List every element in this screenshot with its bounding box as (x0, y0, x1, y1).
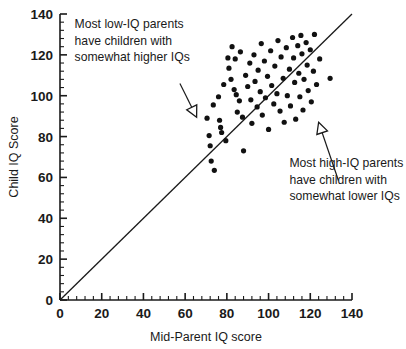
scatter-point (248, 97, 253, 102)
scatter-point (232, 87, 237, 92)
scatter-point (312, 32, 317, 37)
scatter-point (298, 33, 303, 38)
scatter-point (308, 47, 313, 52)
scatter-point (238, 49, 243, 54)
x-axis-title: Mid-Parent IQ score (150, 330, 262, 344)
scatter-point (251, 52, 256, 57)
annotation-line: have children with (75, 34, 173, 48)
annotation-line: somewhat lower IQs (289, 189, 399, 203)
scatter-point (275, 38, 280, 43)
scatter-point (306, 88, 311, 93)
scatter-data-points (204, 32, 332, 173)
scatter-point (314, 82, 319, 87)
scatter-point (300, 107, 305, 112)
annotation-leader-line (180, 83, 192, 107)
annotation-line: Most low-IQ parents (75, 17, 184, 31)
scatter-point (328, 76, 333, 81)
scatter-point (235, 109, 240, 114)
x-axis-tick-labels: 020406080100120140 (56, 306, 363, 321)
high-iq-annotation: Most high-IQ parentshave children withso… (289, 122, 403, 203)
scatter-point (260, 113, 265, 118)
scatter-point (297, 94, 302, 99)
scatter-point (268, 48, 273, 53)
scatter-point (243, 73, 248, 78)
y-tick-label: 40 (38, 211, 53, 226)
scatter-point (255, 104, 260, 109)
scatter-point (272, 63, 277, 68)
scatter-point (287, 67, 292, 72)
annotation-arrowhead-icon (317, 122, 328, 134)
y-tick-label: 0 (45, 293, 53, 308)
scatter-point (292, 80, 297, 85)
scatter-point (290, 35, 295, 40)
x-tick-label: 0 (56, 306, 64, 321)
scatter-point (226, 66, 231, 71)
scatter-point (241, 148, 246, 153)
scatter-point (304, 40, 309, 45)
scatter-point (285, 93, 290, 98)
scatter-point (262, 58, 267, 63)
scatter-point (225, 55, 230, 60)
scatter-point (309, 99, 314, 104)
scatter-point (282, 120, 287, 125)
annotation-arrowhead-icon (187, 105, 197, 117)
x-tick-label: 140 (341, 306, 364, 321)
x-tick-label: 60 (178, 306, 193, 321)
y-tick-label: 140 (30, 7, 53, 22)
y-axis-title: Child IQ Score (7, 116, 21, 197)
scatter-point (265, 74, 270, 79)
scatter-point (295, 43, 300, 48)
low-iq-annotation: Most low-IQ parentshave children withsom… (75, 17, 197, 117)
scatter-point (296, 71, 301, 76)
scatter-point (305, 62, 310, 67)
x-axis-ticks (60, 293, 352, 300)
scatter-point (291, 55, 296, 60)
x-tick-label: 40 (136, 306, 151, 321)
scatter-point (228, 77, 233, 82)
scatter-point (240, 115, 245, 120)
scatter-point (288, 103, 293, 108)
scatter-point (217, 118, 222, 123)
scatter-point (281, 76, 286, 81)
iq-regression-scatter-chart: 020406080100120140 020406080100120140 Mo… (0, 0, 406, 349)
scatter-point (207, 133, 212, 138)
scatter-point (252, 79, 257, 84)
scatter-point (237, 98, 242, 103)
scatter-point (299, 51, 304, 56)
scatter-point (229, 44, 234, 49)
x-tick-label: 120 (299, 306, 322, 321)
y-tick-label: 80 (38, 130, 53, 145)
scatter-point (234, 92, 239, 97)
scatter-point (233, 56, 238, 61)
scatter-point (218, 125, 223, 130)
annotation-line: Most high-IQ parents (289, 156, 403, 170)
scatter-point (274, 91, 279, 96)
y-axis-tick-labels: 020406080100120140 (30, 7, 53, 308)
scatter-point (219, 130, 224, 135)
x-tick-label: 80 (219, 306, 234, 321)
scatter-point (211, 102, 216, 107)
scatter-point (263, 95, 268, 100)
scatter-point (311, 69, 316, 74)
scatter-point (317, 56, 322, 61)
scatter-point (245, 84, 250, 89)
scatter-point (256, 68, 261, 73)
scatter-point (204, 116, 209, 121)
annotation-line: somewhat higher IQs (75, 50, 190, 64)
scatter-point (258, 89, 263, 94)
scatter-point (221, 82, 226, 87)
scatter-point (212, 168, 217, 173)
y-tick-label: 120 (30, 48, 53, 63)
scatter-point (301, 77, 306, 82)
y-tick-label: 20 (38, 252, 53, 267)
y-tick-label: 100 (30, 89, 53, 104)
scatter-point (259, 41, 264, 46)
scatter-point (293, 117, 298, 122)
scatter-point (266, 127, 271, 132)
scatter-point (277, 108, 282, 113)
x-tick-label: 100 (257, 306, 280, 321)
scatter-point (208, 143, 213, 148)
x-tick-label: 20 (94, 306, 109, 321)
scatter-point (209, 158, 214, 163)
scatter-point (278, 54, 283, 59)
